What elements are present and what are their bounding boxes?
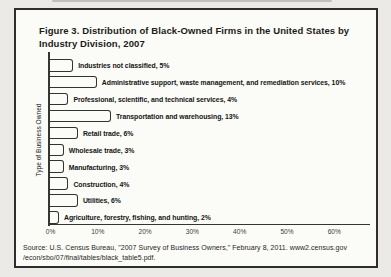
- bar-segment: [50, 211, 59, 224]
- bar-row: Industries not classified, 5%: [50, 59, 368, 72]
- x-tick-label: 60%: [318, 228, 350, 235]
- bar-row: Retail trade, 6%: [50, 127, 368, 140]
- bar-label: Manufacturing, 3%: [69, 163, 129, 170]
- bar-row: Manufacturing, 3%: [50, 160, 368, 173]
- bar-label: Transportation and warehousing, 13%: [116, 112, 239, 119]
- bar-segment: [50, 76, 97, 89]
- bar-segment: [50, 127, 78, 140]
- x-tick-label: 20%: [129, 228, 161, 235]
- plot-area: Industries not classified, 5%Administrat…: [50, 54, 368, 225]
- bar-label: Industries not classified, 5%: [78, 62, 169, 69]
- bar-row: Transportation and warehousing, 13%: [50, 110, 368, 123]
- scanned-page: Figure 3. Distribution of Black-Owned Fi…: [0, 0, 391, 277]
- bar-label: Agriculture, forestry, fishing, and hunt…: [64, 214, 211, 221]
- x-tick-label: 30%: [176, 228, 208, 235]
- x-tick-label: 10%: [82, 228, 114, 235]
- bar-segment: [50, 93, 69, 106]
- source-text: Source: U.S. Census Bureau, "2007 Survey…: [23, 243, 375, 263]
- bar-row: Professional, scientific, and technical …: [50, 93, 368, 106]
- bar-label: Construction, 4%: [73, 180, 129, 187]
- bar-label: Administrative support, waste management…: [102, 79, 345, 86]
- bar-row: Administrative support, waste management…: [50, 76, 368, 89]
- source-line-1: Source: U.S. Census Bureau, "2007 Survey…: [23, 243, 375, 253]
- bar-label: Utilities, 6%: [83, 197, 121, 204]
- figure-border-box: Figure 3. Distribution of Black-Owned Fi…: [14, 8, 378, 268]
- scan-artifact-line: [52, 0, 332, 2]
- bar-label: Professional, scientific, and technical …: [73, 96, 237, 103]
- bar-row: Wholesale trade, 3%: [50, 144, 368, 157]
- bar-label: Wholesale trade, 3%: [69, 146, 135, 153]
- bar-segment: [50, 194, 78, 207]
- source-line-2: /econ/sbo/07/final/tables/black_table5.p…: [23, 253, 375, 263]
- bar-row: Agriculture, forestry, fishing, and hunt…: [50, 211, 368, 224]
- bar-label: Retail trade, 6%: [83, 129, 134, 136]
- bar-segment: [50, 177, 69, 190]
- bar-row: Construction, 4%: [50, 177, 368, 190]
- bar-segment: [50, 59, 74, 72]
- figure-title: Figure 3. Distribution of Black-Owned Fi…: [39, 24, 387, 51]
- bar-segment: [50, 110, 111, 123]
- bar-row: Utilities, 6%: [50, 194, 368, 207]
- bar-segment: [50, 160, 64, 173]
- x-tick-label: 0%: [35, 228, 67, 235]
- x-tick-label: 40%: [224, 228, 256, 235]
- x-tick-label: 50%: [271, 228, 303, 235]
- bar-segment: [50, 144, 64, 157]
